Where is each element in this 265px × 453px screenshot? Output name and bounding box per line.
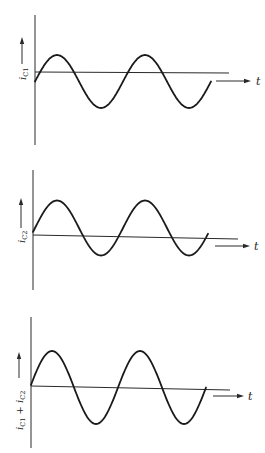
panel-ic2: t iC2 — [16, 170, 259, 290]
y-arrow-icon — [17, 352, 21, 378]
t-axis-label: t — [248, 390, 253, 403]
waveform-sum — [31, 351, 206, 424]
t-axis-label: t — [254, 240, 259, 253]
waveform-ic1 — [35, 55, 211, 108]
waveform-figure: t iC1 t iC2 t iC1 + iC2 — [0, 0, 265, 453]
time-axis — [31, 386, 230, 390]
y-arrow-icon — [20, 37, 24, 64]
time-axis — [35, 72, 229, 73]
t-arrow-icon — [213, 394, 244, 398]
y-axis-label: iC2 — [16, 231, 29, 243]
panel-ic1: t iC1 — [17, 15, 261, 145]
t-axis-label: t — [256, 75, 261, 88]
y-arrow-icon — [19, 198, 23, 228]
y-axis-label: iC1 — [17, 68, 30, 80]
t-arrow-icon — [216, 79, 251, 83]
y-axis-label: iC1 + iC2 — [14, 391, 27, 430]
panel-ic1-plus-ic2: t iC1 + iC2 — [14, 317, 253, 448]
t-arrow-icon — [215, 244, 250, 248]
waveform-ic2 — [33, 201, 208, 256]
